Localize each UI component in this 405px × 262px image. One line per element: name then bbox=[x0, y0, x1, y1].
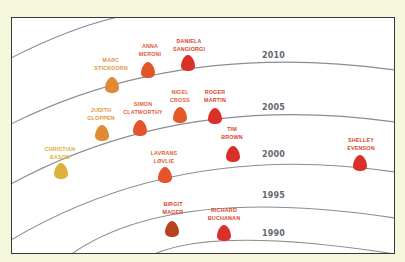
person-name: MARCSTICKDORN bbox=[94, 57, 127, 71]
drop-marker-icon bbox=[353, 155, 367, 171]
year-label: 2005 bbox=[262, 103, 285, 112]
person-marker-mager bbox=[165, 221, 179, 237]
person-marker-cross bbox=[173, 107, 187, 123]
year-marker-2010: 2010 bbox=[256, 50, 290, 61]
person-marker-løvlie bbox=[158, 167, 172, 183]
year-labels: 20102005200019951990 bbox=[256, 50, 290, 239]
person-marker-meroni bbox=[141, 62, 155, 78]
drop-marker-icon bbox=[141, 62, 155, 78]
person-name: SHELLEYEVENSON bbox=[347, 137, 374, 151]
drop-marker-icon bbox=[165, 221, 179, 237]
person-name: BIRGITMAGER bbox=[163, 201, 184, 215]
person-name: LAVRANSLØVLIE bbox=[151, 150, 178, 164]
person-marker-gloppen bbox=[95, 125, 109, 141]
person-name: TIMBROWN bbox=[221, 126, 243, 140]
year-marker-1990: 1990 bbox=[256, 228, 290, 239]
drop-marker-icon bbox=[133, 120, 147, 136]
person-marker-buchanan bbox=[217, 225, 231, 241]
person-marker-evenson bbox=[353, 155, 367, 171]
person-name: ANNAMERONI bbox=[139, 43, 162, 57]
year-arcs bbox=[11, 17, 395, 255]
person-marker-brown bbox=[226, 146, 240, 162]
person-name: DANIELASANGIORGI bbox=[173, 38, 206, 52]
person-name: ROGERMARTIN bbox=[204, 89, 226, 103]
person-name: SIMONCLATWORTHY bbox=[123, 101, 163, 115]
drop-marker-icon bbox=[226, 146, 240, 162]
person-name: JUDITHGLOPPEN bbox=[87, 107, 114, 121]
person-name: RICHARDBUCHANAN bbox=[208, 207, 240, 221]
people-markers bbox=[54, 55, 367, 241]
drop-marker-icon bbox=[217, 225, 231, 241]
year-marker-2000: 2000 bbox=[256, 149, 290, 160]
drop-marker-icon bbox=[173, 107, 187, 123]
year-marker-1995: 1995 bbox=[256, 190, 290, 201]
arc-2010 bbox=[11, 62, 395, 124]
arc-1990 bbox=[152, 240, 395, 255]
year-label: 2000 bbox=[262, 150, 285, 159]
drop-marker-icon bbox=[181, 55, 195, 71]
drop-marker-icon bbox=[95, 125, 109, 141]
person-marker-martin bbox=[208, 108, 222, 124]
person-marker-sangiorgi bbox=[181, 55, 195, 71]
drop-marker-icon bbox=[208, 108, 222, 124]
person-name: NIGELCROSS bbox=[170, 89, 190, 103]
arc-2000 bbox=[11, 164, 395, 240]
year-label: 1995 bbox=[262, 191, 285, 200]
year-label: 1990 bbox=[262, 229, 285, 238]
timeline-diagram: 20102005200019951990 DANIELASANGIORGIANN… bbox=[0, 0, 405, 262]
year-label: 2010 bbox=[262, 51, 285, 60]
drop-marker-icon bbox=[105, 77, 119, 93]
drop-marker-icon bbox=[54, 163, 68, 179]
person-name: CHRISTIANBASON bbox=[45, 146, 76, 160]
people-names: DANIELASANGIORGIANNAMERONIMARCSTICKDORNN… bbox=[45, 38, 375, 221]
year-marker-2005: 2005 bbox=[256, 102, 290, 113]
drop-marker-icon bbox=[158, 167, 172, 183]
diagram-canvas: 20102005200019951990 DANIELASANGIORGIANN… bbox=[0, 0, 405, 262]
person-marker-bason bbox=[54, 163, 68, 179]
person-marker-clatworthy bbox=[133, 120, 147, 136]
person-marker-stickdorn bbox=[105, 77, 119, 93]
arc-top bbox=[11, 17, 118, 58]
